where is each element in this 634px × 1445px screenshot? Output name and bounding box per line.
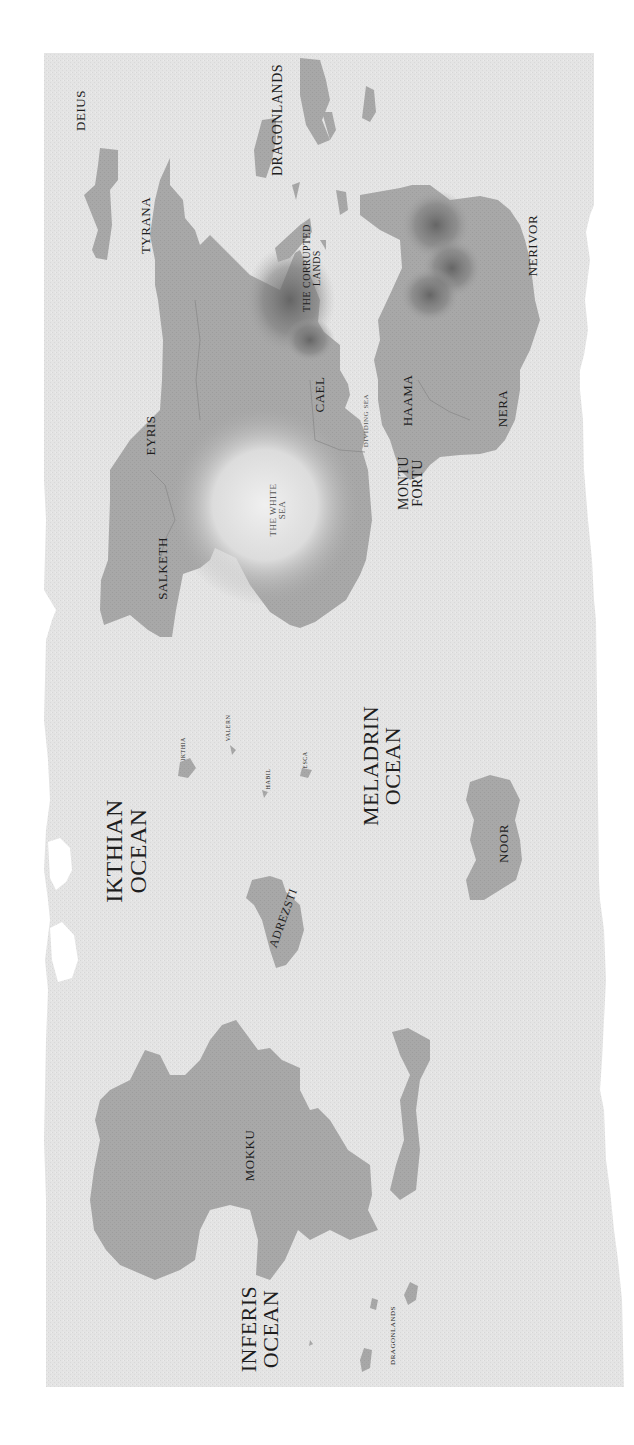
label-the-corrupted-lands: THE CORRUPTED LANDS <box>302 224 322 312</box>
label-eyris: EYRIS <box>144 415 157 455</box>
label-dragonlands-north: DRAGONLANDS <box>271 64 285 176</box>
label-ikthia: IKTHIA <box>180 737 186 761</box>
label-meladrin-ocean: MELADRIN OCEAN <box>360 706 404 826</box>
label-salketh: SALKETH <box>155 537 168 600</box>
white-sea-region <box>170 405 360 605</box>
label-habil: HABIL <box>265 769 271 790</box>
label-montu-fortu: MONTU FORTU <box>397 456 425 510</box>
label-the-white-sea: THE WHITE SEA <box>268 483 286 536</box>
label-noor: NOOR <box>496 824 509 863</box>
label-tyrana: TYRANA <box>139 196 152 253</box>
world-map: DEIUSTYRANADRAGONLANDSTHE CORRUPTED LAND… <box>0 0 634 1445</box>
label-dividing-sea: DIVIDING SEA <box>363 393 370 446</box>
label-dragonlands-south: DRAGONLANDS <box>389 1306 396 1365</box>
label-deius: DEIUS <box>73 90 86 131</box>
label-ikthian-ocean: IKTHIAN OCEAN <box>101 799 149 902</box>
label-nera: NERA <box>496 389 509 426</box>
label-cael: CAEL <box>313 376 326 412</box>
highland-east-main-2 <box>285 318 335 362</box>
label-inferis-ocean: INFERIS OCEAN <box>238 1286 282 1373</box>
label-esca: ESCA <box>301 751 307 768</box>
label-valern: VALERN <box>225 715 231 742</box>
label-nerivor: NERIVOR <box>526 214 539 275</box>
highland-south-3 <box>400 267 460 323</box>
label-haama: HAAMA <box>401 374 414 426</box>
label-mokku: MOKKU <box>243 1129 256 1181</box>
island-noor <box>466 775 522 900</box>
